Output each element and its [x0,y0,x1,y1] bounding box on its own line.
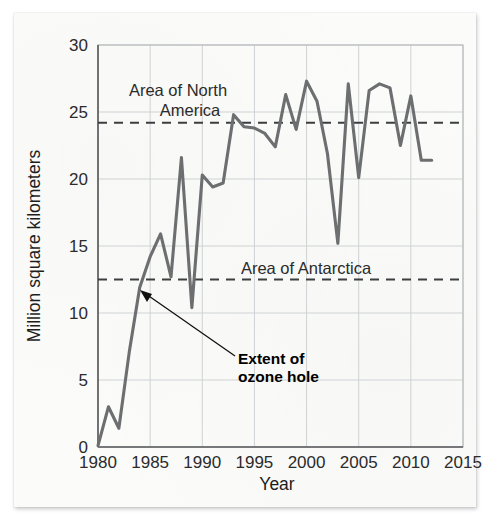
x-tick-2000: 2000 [288,453,326,472]
ref-label-north-america-line2: America [160,101,221,119]
y-tick-25: 25 [69,103,88,122]
x-tick-1990: 1990 [183,453,221,472]
reference-lines-group [98,123,463,280]
y-axis-title: Million square kilometers [24,149,44,342]
x-tick-1980: 1980 [79,453,117,472]
y-tick-5: 5 [79,371,88,390]
x-tick-1995: 1995 [236,453,274,472]
y-tick-10: 10 [69,304,88,323]
annotation-label-line2: ozone hole [238,368,319,385]
x-tick-labels: 19801985199019952000200520102015 [79,453,482,472]
x-tick-1985: 1985 [131,453,169,472]
annotation-label-line1: Extent of [238,350,305,367]
ozone-hole-annotation-arrow [140,290,235,356]
x-tick-2005: 2005 [340,453,378,472]
y-tick-20: 20 [69,170,88,189]
y-tick-30: 30 [69,36,88,55]
y-tick-labels: 051015202530 [69,36,88,457]
ref-label-antarctica: Area of Antarctica [241,259,372,277]
y-tick-15: 15 [69,237,88,256]
chart-page: 051015202530 198019851990199520002005201… [0,0,496,527]
x-tick-2015: 2015 [444,453,482,472]
ref-label-north-america-line1: Area of North [129,81,227,99]
x-axis-title: Year [259,474,295,494]
x-tick-2010: 2010 [392,453,430,472]
ozone-hole-line-chart: 051015202530 198019851990199520002005201… [0,0,496,527]
